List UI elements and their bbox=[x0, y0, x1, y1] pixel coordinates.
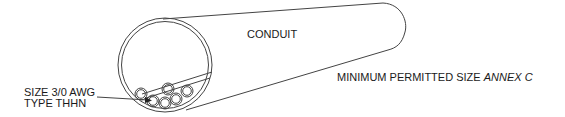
conduit-far-end bbox=[383, 3, 406, 50]
conduit-inner-ring bbox=[122, 22, 209, 109]
conduit-label: CONDUIT bbox=[247, 28, 297, 40]
minimum-size-label: MINIMUM PERMITTED SIZE ANNEX C bbox=[337, 71, 533, 83]
conduit-outer-ring bbox=[118, 18, 212, 112]
conduit-top-edge bbox=[163, 3, 383, 19]
conductor-bundle bbox=[135, 83, 193, 109]
conductor-type-label: TYPE THHN bbox=[24, 97, 86, 109]
minimum-size-text: MINIMUM PERMITTED SIZE bbox=[337, 71, 484, 83]
annex-reference: ANNEX C bbox=[484, 71, 533, 83]
